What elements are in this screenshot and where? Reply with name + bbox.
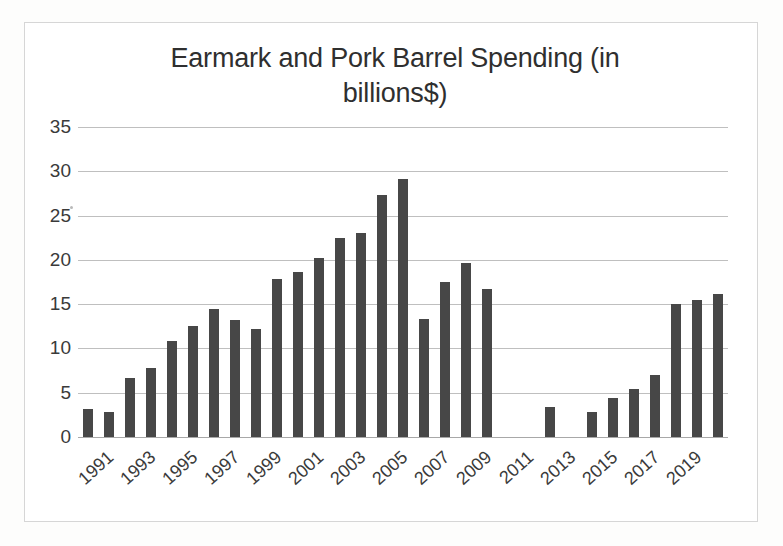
x-tick-label-1999: 1999	[242, 447, 286, 489]
x-tick-label-2013: 2013	[536, 447, 580, 489]
bar	[650, 375, 660, 437]
bar	[629, 389, 639, 437]
bar	[713, 294, 723, 437]
bar	[314, 258, 324, 437]
bar	[104, 412, 114, 437]
x-tick-label-2015: 2015	[578, 447, 622, 489]
x-tick-label-2011: 2011	[495, 447, 538, 489]
bar	[272, 279, 282, 437]
bar	[125, 378, 135, 437]
y-tick-label-20: 20	[31, 249, 71, 271]
chart-title-line-1: Earmark and Pork Barrel Spending (in	[85, 41, 705, 76]
y-tick-label-30: 30	[31, 160, 71, 182]
y-tick-label-25: 25	[31, 205, 71, 227]
y-tick-label-5: 5	[31, 382, 71, 404]
x-tick-label-2005: 2005	[368, 447, 412, 489]
y-tick-label-0: 0	[31, 426, 71, 448]
x-tick-label-2007: 2007	[410, 447, 454, 489]
bar	[608, 398, 618, 437]
x-tick-label-2019: 2019	[662, 447, 706, 489]
bar	[230, 320, 240, 437]
x-tick-label-2001: 2001	[284, 447, 328, 489]
y-tick-label-35: 35	[31, 116, 71, 138]
x-tick-label-2009: 2009	[452, 447, 496, 489]
x-tick-label-1991: 1991	[75, 447, 119, 489]
bar	[251, 329, 261, 437]
y-tick-label-15: 15	[31, 293, 71, 315]
x-tick-label-2003: 2003	[326, 447, 370, 489]
page-background: Earmark and Pork Barrel Spending (in bil…	[0, 0, 783, 546]
bar	[335, 238, 345, 437]
bar	[83, 409, 93, 437]
bar	[419, 319, 429, 437]
bar	[587, 412, 597, 437]
bar	[440, 282, 450, 437]
bar	[167, 341, 177, 437]
x-tick-label-1997: 1997	[201, 447, 245, 489]
bar	[545, 407, 555, 437]
x-tick-label-1995: 1995	[159, 447, 203, 489]
y-tick-label-10: 10	[31, 337, 71, 359]
plot-area: 05101520253035 1991199319951997199920012…	[78, 127, 728, 437]
chart-title: Earmark and Pork Barrel Spending (in bil…	[85, 41, 705, 110]
bar	[482, 289, 492, 437]
bar	[293, 272, 303, 437]
x-tick-label-2017: 2017	[620, 447, 664, 489]
y-axis-tick-labels: 05101520253035	[31, 127, 71, 437]
bar	[461, 263, 471, 437]
scan-speck	[70, 206, 73, 209]
x-axis-tick-labels: 1991199319951997199920012003200520072009…	[78, 437, 728, 527]
bar	[356, 233, 366, 437]
x-tick-label-1993: 1993	[117, 447, 161, 489]
bar	[146, 368, 156, 437]
chart-title-line-2: billions$)	[85, 76, 705, 111]
bar	[209, 309, 219, 437]
bar	[377, 195, 387, 437]
bar	[692, 300, 702, 437]
bar	[188, 326, 198, 437]
chart-frame: Earmark and Pork Barrel Spending (in bil…	[24, 22, 758, 522]
bar-series	[78, 127, 728, 437]
bar	[671, 304, 681, 437]
bar	[398, 179, 408, 437]
